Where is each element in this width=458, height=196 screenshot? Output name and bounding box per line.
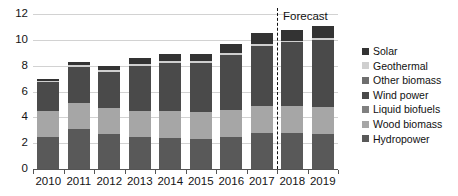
y-axis-tick-label: 4 xyxy=(22,112,28,124)
bar-group xyxy=(33,14,338,169)
bar-2012 xyxy=(98,66,120,169)
x-axis-label-2019: 2019 xyxy=(306,176,340,188)
bar-segment-wind-power xyxy=(251,46,273,105)
y-axis-tick-label: 10 xyxy=(15,34,28,46)
legend-label: Solar xyxy=(373,46,398,57)
legend-item-geothermal[interactable]: Geothermal xyxy=(362,59,456,74)
y-axis-tick-label: 12 xyxy=(15,8,28,20)
bar-segment-wood-biomass xyxy=(190,112,212,139)
bar-segment-wind-power xyxy=(220,55,242,109)
bar-segment-wood-biomass xyxy=(129,111,151,137)
bar-2014 xyxy=(159,54,181,169)
bar-segment-wind-power xyxy=(281,42,303,105)
x-axis-label-2018: 2018 xyxy=(275,176,309,188)
bar-segment-solar xyxy=(281,30,303,41)
bar-segment-wind-power xyxy=(37,82,59,110)
bar-segment-wind-power xyxy=(98,72,120,108)
bar-2015 xyxy=(190,54,212,169)
bar-segment-hydropower xyxy=(312,134,334,169)
bar-segment-wind-power xyxy=(312,40,334,107)
bar-segment-solar xyxy=(220,44,242,54)
bar-segment-wood-biomass xyxy=(281,106,303,133)
forecast-label: Forecast xyxy=(283,11,328,23)
x-axis-tick xyxy=(64,170,65,174)
y-axis-tick-label: 0 xyxy=(22,163,28,175)
bar-segment-wood-biomass xyxy=(98,108,120,134)
x-axis-tick xyxy=(94,170,95,174)
bar-segment-hydropower xyxy=(98,134,120,169)
x-axis-label-2012: 2012 xyxy=(92,176,126,188)
y-axis-tick-label: 2 xyxy=(22,137,28,149)
bar-segment-wood-biomass xyxy=(159,111,181,138)
x-axis-label-2013: 2013 xyxy=(123,176,157,188)
x-axis-label-2011: 2011 xyxy=(62,176,96,188)
legend-label: Liquid biofuels xyxy=(373,104,440,115)
x-axis-tick xyxy=(338,170,339,174)
y-axis-tick-label: 8 xyxy=(22,60,28,72)
bar-segment-hydropower xyxy=(159,138,181,169)
bar-segment-wood-biomass xyxy=(312,107,334,134)
bar-segment-hydropower xyxy=(129,137,151,169)
bar-segment-hydropower xyxy=(68,129,90,169)
x-axis-tick xyxy=(125,170,126,174)
bar-2011 xyxy=(68,62,90,169)
bar-segment-solar xyxy=(190,54,212,61)
bar-2019 xyxy=(312,26,334,169)
legend-swatch-icon xyxy=(362,92,369,99)
bar-segment-hydropower xyxy=(220,137,242,169)
bar-segment-wind-power xyxy=(129,66,151,111)
bar-segment-wind-power xyxy=(190,63,212,112)
y-axis-tick-label: 6 xyxy=(22,86,28,98)
bar-segment-solar xyxy=(312,26,334,38)
legend-swatch-icon xyxy=(362,62,369,69)
bar-segment-hydropower xyxy=(190,139,212,169)
legend-label: Hydropower xyxy=(373,134,430,145)
legend-item-wood-biomass[interactable]: Wood biomass xyxy=(362,117,456,132)
forecast-divider-line xyxy=(277,8,278,174)
x-axis-tick xyxy=(308,170,309,174)
legend-item-hydropower[interactable]: Hydropower xyxy=(362,132,456,147)
bar-segment-solar xyxy=(251,33,273,44)
legend-swatch-icon xyxy=(362,48,369,55)
legend-swatch-icon xyxy=(362,77,369,84)
x-axis-label-2015: 2015 xyxy=(184,176,218,188)
bar-segment-wood-biomass xyxy=(220,110,242,137)
bar-2017 xyxy=(251,33,273,169)
legend-item-solar[interactable]: Solar xyxy=(362,44,456,59)
legend-swatch-icon xyxy=(362,106,369,113)
bar-2018 xyxy=(281,30,303,169)
x-axis-label-2017: 2017 xyxy=(245,176,279,188)
legend-item-liquid-biofuels[interactable]: Liquid biofuels xyxy=(362,102,456,117)
legend-label: Wind power xyxy=(373,90,428,101)
x-axis-tick xyxy=(155,170,156,174)
bar-segment-solar xyxy=(159,54,181,61)
plot-area xyxy=(33,14,338,170)
chart-legend: SolarGeothermalOther biomassWind powerLi… xyxy=(362,44,456,146)
bar-segment-hydropower xyxy=(37,137,59,169)
legend-item-other-biomass[interactable]: Other biomass xyxy=(362,73,456,88)
legend-swatch-icon xyxy=(362,121,369,128)
bar-segment-wind-power xyxy=(68,67,90,103)
legend-item-wind-power[interactable]: Wind power xyxy=(362,88,456,103)
bar-segment-wood-biomass xyxy=(37,111,59,137)
stacked-bar-chart: 024681012 Forecast 201020112012201320142… xyxy=(0,0,458,196)
x-axis-label-2016: 2016 xyxy=(214,176,248,188)
y-axis-labels: 024681012 xyxy=(0,0,28,196)
x-axis-tick xyxy=(277,170,278,174)
bar-segment-hydropower xyxy=(251,133,273,169)
bar-segment-wood-biomass xyxy=(251,106,273,133)
bar-segment-wind-power xyxy=(159,63,181,111)
legend-label: Other biomass xyxy=(373,75,441,86)
bar-2013 xyxy=(129,58,151,169)
x-axis-label-2014: 2014 xyxy=(153,176,187,188)
x-axis: 2010201120122013201420152016201720182019 xyxy=(33,170,338,194)
bar-segment-wood-biomass xyxy=(68,103,90,129)
x-axis-tick xyxy=(216,170,217,174)
legend-swatch-icon xyxy=(362,135,369,142)
bar-2016 xyxy=(220,44,242,169)
bar-2010 xyxy=(37,79,59,169)
legend-label: Wood biomass xyxy=(373,119,442,130)
x-axis-label-2010: 2010 xyxy=(31,176,65,188)
x-axis-tick xyxy=(247,170,248,174)
x-axis-tick xyxy=(33,170,34,174)
